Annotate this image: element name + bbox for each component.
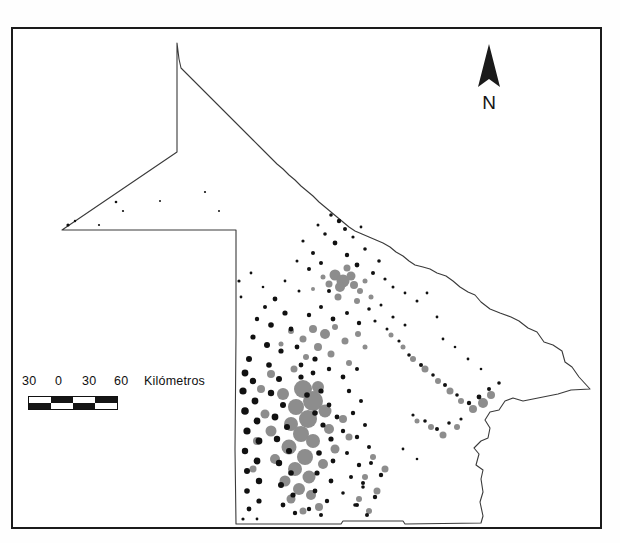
map-figure: 30 0 30 60 Kilómetros N xyxy=(0,0,620,543)
map-neatline-frame xyxy=(11,27,602,529)
land-cover-patches-gray xyxy=(250,265,496,515)
scale-seg xyxy=(95,403,117,409)
scale-tick-0: 30 xyxy=(22,374,36,388)
scale-seg xyxy=(51,403,73,409)
north-arrow-label: N xyxy=(466,92,512,114)
scale-seg xyxy=(73,403,95,409)
land-cover-patches-dark xyxy=(66,191,500,521)
scale-bar-tick-labels: 30 0 30 60 Kilómetros xyxy=(22,374,152,392)
scale-seg xyxy=(29,403,51,409)
scale-tick-1: 0 xyxy=(55,374,62,388)
scale-bar-graphic xyxy=(28,396,118,410)
scale-bar-row-bottom xyxy=(29,403,117,409)
scale-tick-2: 30 xyxy=(82,374,96,388)
north-arrow: N xyxy=(466,42,512,114)
north-arrow-icon xyxy=(466,42,512,92)
scale-tick-3: 60 xyxy=(114,374,128,388)
scale-bar-units-label: Kilómetros xyxy=(144,374,205,388)
scale-bar: 30 0 30 60 Kilómetros xyxy=(22,374,152,392)
